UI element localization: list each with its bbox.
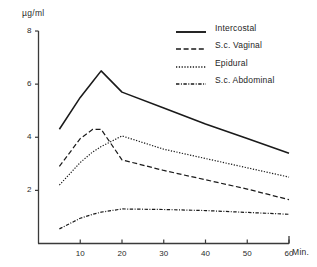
- x-tick-label-30: 30: [152, 249, 176, 258]
- series-line-s-c-abdominal: [59, 209, 289, 229]
- legend-item-s-c-abdominal: S.c. Abdominal: [176, 75, 275, 86]
- x-tick-label-50: 50: [235, 249, 259, 258]
- legend-item-s-c-vaginal: S.c. Vaginal: [176, 40, 275, 51]
- legend-label-s-c-abdominal: S.c. Abdominal: [215, 75, 275, 85]
- legend-label-s-c-vaginal: S.c. Vaginal: [215, 40, 262, 50]
- x-tick-label-40: 40: [194, 249, 218, 258]
- series-line-s-c-vaginal: [59, 129, 289, 199]
- legend-line-sample-intercostal: [176, 23, 206, 33]
- legend-item-epidural: Epidural: [176, 57, 275, 68]
- y-tick-label-8: 8: [18, 26, 32, 35]
- x-tick-label-20: 20: [110, 249, 134, 258]
- x-tick-label-60: 60: [277, 249, 301, 258]
- chart-legend: IntercostalS.c. VaginalEpiduralS.c. Abdo…: [176, 22, 275, 86]
- y-tick-label-4: 4: [18, 132, 32, 141]
- data-series-layer: [59, 71, 289, 229]
- series-line-epidural: [59, 136, 289, 185]
- x-tick-label-10: 10: [68, 249, 92, 258]
- y-tick-label-6: 6: [18, 79, 32, 88]
- legend-label-epidural: Epidural: [215, 58, 248, 68]
- legend-label-intercostal: Intercostal: [215, 23, 256, 33]
- legend-line-sample-s-c-vaginal: [176, 40, 206, 50]
- y-tick-label-2: 2: [18, 185, 32, 194]
- legend-line-sample-epidural: [176, 58, 206, 68]
- legend-item-intercostal: Intercostal: [176, 22, 275, 33]
- chart-figure: µg/ml Min. 2468 102030405060 Intercostal…: [0, 0, 317, 267]
- legend-line-sample-s-c-abdominal: [176, 75, 206, 85]
